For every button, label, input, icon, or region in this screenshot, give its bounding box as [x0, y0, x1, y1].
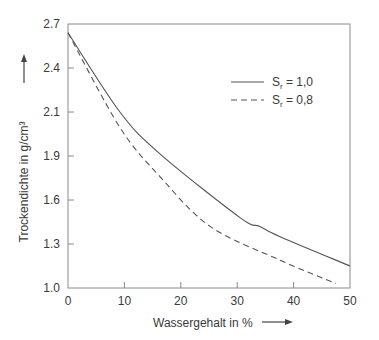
- y-axis-arrow-icon: [21, 54, 27, 83]
- legend-item-2: Sr = 0,8: [272, 93, 313, 109]
- x-tick-label: 50: [343, 294, 357, 308]
- x-tick-label: 0: [65, 294, 72, 308]
- y-tick-label: 1.0: [43, 281, 60, 295]
- chart: 2.72.42.11.91.61.31.0 01020304050 Sr = 1…: [0, 0, 379, 340]
- y-axis: 2.72.42.11.91.61.31.0: [43, 17, 74, 295]
- y-tick-label: 2.4: [43, 61, 60, 75]
- y-tick-label: 2.1: [43, 105, 60, 119]
- x-axis-title: Wassergehalt in %: [153, 316, 253, 330]
- x-tick-label: 20: [174, 294, 188, 308]
- x-axis: 01020304050: [65, 282, 357, 308]
- x-tick-label: 10: [118, 294, 132, 308]
- y-tick-label: 2.7: [43, 17, 60, 31]
- series-sr-0-8-line: [68, 33, 336, 284]
- legend: Sr = 1,0 Sr = 0,8: [231, 75, 313, 109]
- y-tick-label: 1.6: [43, 193, 60, 207]
- legend-item-1: Sr = 1,0: [272, 75, 313, 91]
- x-tick-label: 40: [287, 294, 301, 308]
- series-sr-1-0-line: [68, 33, 350, 266]
- y-tick-label: 1.3: [43, 237, 60, 251]
- y-tick-label: 1.9: [43, 149, 60, 163]
- x-axis-arrow-icon: [262, 319, 293, 325]
- y-axis-title: Trockendichte in g/cm³: [17, 122, 31, 243]
- x-tick-label: 30: [231, 294, 245, 308]
- series-lines: [68, 33, 350, 284]
